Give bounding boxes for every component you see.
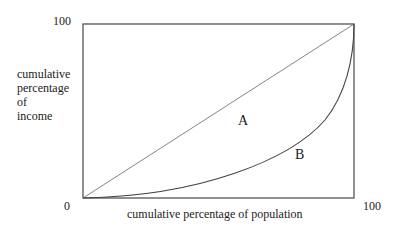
ylabel-line: of: [17, 95, 70, 109]
equality-line: [83, 24, 354, 198]
x-tick-0: 0: [64, 199, 70, 213]
ylabel-line: income: [17, 109, 70, 123]
ylabel-line: cumulative: [17, 67, 70, 81]
area-a-label: A: [238, 114, 248, 128]
ylabel-line: percentage: [17, 81, 70, 95]
area-b-label: B: [295, 148, 304, 162]
y-axis-label: cumulative percentage of income: [17, 67, 70, 123]
y-tick-100: 100: [53, 14, 71, 28]
x-tick-100: 100: [363, 199, 381, 213]
x-axis-label: cumulative percentage of population: [127, 207, 303, 221]
